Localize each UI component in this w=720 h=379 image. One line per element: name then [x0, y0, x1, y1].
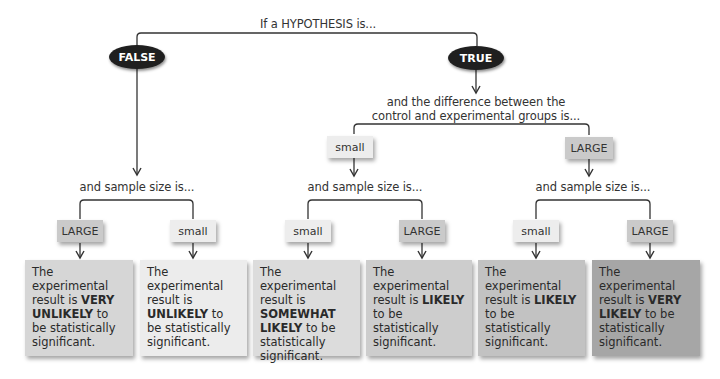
sample-level-box: LARGE	[399, 220, 445, 242]
result-text: to be statistically significant.	[373, 307, 439, 349]
result-box: The experimental result is VERY UNLIKELY…	[25, 260, 133, 356]
difference-prompt-line2: control and experimental groups is...	[372, 109, 580, 123]
sample-prompt-true-large: and sample size is...	[536, 180, 651, 194]
sample-level-box: small	[285, 220, 331, 242]
result-box: The experimental result is SOMEWHAT LIKE…	[253, 260, 360, 356]
result-text: The experimental result is	[147, 265, 223, 307]
result-likelihood: LIKELY	[422, 293, 464, 307]
sample-level-box: small	[170, 220, 216, 242]
false-node: FALSE	[109, 45, 165, 69]
sample-prompt-false: and sample size is...	[80, 180, 195, 194]
result-box: The experimental result is LIKELY to be …	[366, 260, 472, 356]
sample-level-box: small	[513, 220, 559, 242]
result-box: The experimental result is VERY LIKELY t…	[592, 260, 700, 356]
result-box: The experimental result is LIKELY to be …	[478, 260, 585, 356]
sample-level-box: LARGE	[627, 220, 673, 242]
result-text: The experimental result is	[260, 265, 336, 307]
difference-large-box: LARGE	[565, 137, 613, 159]
difference-small-box: small	[327, 136, 373, 158]
diagram-title: If a HYPOTHESIS is...	[260, 17, 376, 31]
result-text: to be statistically significant.	[485, 307, 551, 349]
true-node: TRUE	[448, 46, 504, 70]
result-likelihood: LIKELY	[534, 293, 576, 307]
result-likelihood: UNLIKELY	[147, 307, 208, 321]
sample-prompt-true-small: and sample size is...	[308, 180, 423, 194]
result-box: The experimental result is UNLIKELY to b…	[140, 260, 247, 356]
difference-prompt-line1: and the difference between the	[387, 95, 566, 109]
sample-level-box: LARGE	[57, 220, 103, 242]
